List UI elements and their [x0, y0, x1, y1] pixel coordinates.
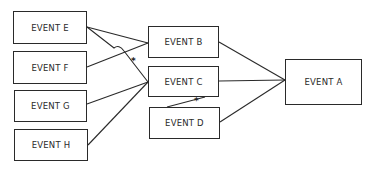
edge-d-a — [220, 80, 285, 122]
edge-e-b — [87, 27, 148, 43]
asterisk-marker-2: * — [194, 97, 199, 106]
event-g-label: EVENT G — [31, 101, 70, 111]
event-e-label: EVENT E — [31, 23, 69, 33]
event-h-box: EVENT H — [14, 129, 88, 161]
edge-g-c — [87, 82, 148, 104]
event-h-label: EVENT H — [32, 140, 71, 150]
event-f-box: EVENT F — [13, 51, 87, 84]
event-g-box: EVENT G — [14, 90, 87, 122]
edge-b-a — [219, 42, 285, 80]
event-f-label: EVENT F — [31, 63, 68, 73]
asterisk-marker-1: * — [131, 57, 136, 66]
event-b-label: EVENT B — [164, 37, 202, 47]
event-c-box: EVENT C — [148, 66, 219, 97]
event-a-box: EVENT A — [285, 59, 362, 105]
edge-c-a — [219, 80, 285, 81]
event-d-label: EVENT D — [165, 118, 204, 128]
event-a-label: EVENT A — [304, 77, 342, 87]
edge-h-c — [88, 82, 148, 145]
event-d-box: EVENT D — [149, 107, 220, 139]
event-e-box: EVENT E — [13, 11, 87, 44]
event-b-box: EVENT B — [148, 26, 219, 58]
event-c-label: EVENT C — [164, 77, 202, 87]
edge-d-c — [167, 97, 205, 107]
